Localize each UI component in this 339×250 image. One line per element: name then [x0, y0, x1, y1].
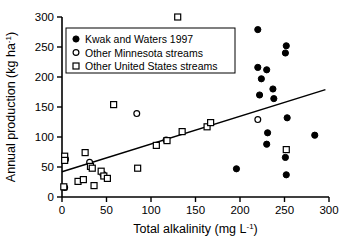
data-point-2-17: [179, 129, 185, 135]
data-point-2-8: [91, 183, 97, 189]
data-point-2-0: [61, 184, 67, 190]
data-point-0-3: [256, 92, 262, 98]
data-point-0-7: [264, 130, 270, 136]
data-point-0-15: [312, 132, 318, 138]
data-point-2-16: [175, 14, 181, 20]
legend-marker-1: [73, 50, 79, 56]
data-point-2-13: [135, 165, 141, 171]
data-point-2-20: [283, 147, 289, 153]
data-point-2-11: [104, 175, 110, 181]
data-point-2-14: [153, 142, 159, 148]
x-tick-label-250: 250: [275, 204, 294, 216]
y-tick-label-150: 150: [35, 101, 54, 113]
data-point-2-12: [111, 102, 117, 108]
data-point-2-4: [80, 177, 86, 183]
data-point-2-19: [208, 120, 214, 126]
y-tick-label-300: 300: [35, 11, 54, 23]
y-axis-title: Annual production (kg ha-1): [4, 32, 18, 182]
data-point-1-4: [134, 111, 140, 117]
legend-label-2: Other United States streams: [85, 60, 217, 72]
x-tick-label-150: 150: [186, 204, 205, 216]
data-point-2-5: [82, 150, 88, 156]
y-tick-label-250: 250: [35, 41, 54, 53]
data-point-0-9: [271, 96, 277, 102]
data-point-0-13: [283, 172, 289, 178]
data-point-1-6: [255, 117, 261, 123]
data-point-0-1: [255, 64, 261, 70]
data-point-0-5: [264, 67, 270, 73]
data-point-0-2: [255, 27, 261, 33]
x-tick-label-300: 300: [319, 204, 338, 216]
data-point-0-11: [282, 154, 288, 160]
legend-label-1: Other Minnesota streams: [85, 47, 203, 59]
data-point-0-8: [270, 86, 276, 92]
y-tick-label-100: 100: [35, 131, 54, 143]
legend-label-0: Kwak and Waters 1997: [85, 33, 193, 45]
data-point-2-15: [164, 138, 170, 144]
x-tick-label-100: 100: [141, 204, 160, 216]
y-tick-label-0: 0: [48, 191, 54, 203]
legend-marker-0: [73, 36, 79, 42]
x-tick-label-50: 50: [100, 204, 113, 216]
x-axis-title: Total alkalinity (mg L-1): [133, 222, 258, 236]
legend-marker-2: [73, 63, 79, 69]
data-point-0-0: [233, 166, 239, 172]
x-tick-label-0: 0: [59, 204, 65, 216]
data-point-0-10: [282, 50, 288, 56]
data-point-0-6: [264, 141, 270, 147]
y-tick-label-200: 200: [35, 71, 54, 83]
scatter-plot: 050100150200250300050100150200250300Tota…: [0, 0, 339, 250]
x-tick-label-200: 200: [230, 204, 249, 216]
data-point-0-12: [283, 43, 289, 49]
figure-container: 050100150200250300050100150200250300Tota…: [0, 0, 339, 250]
data-point-2-2: [62, 157, 68, 163]
data-point-2-7: [89, 165, 95, 171]
data-point-0-4: [258, 76, 264, 82]
y-tick-label-50: 50: [41, 161, 54, 173]
data-point-0-14: [284, 115, 290, 121]
